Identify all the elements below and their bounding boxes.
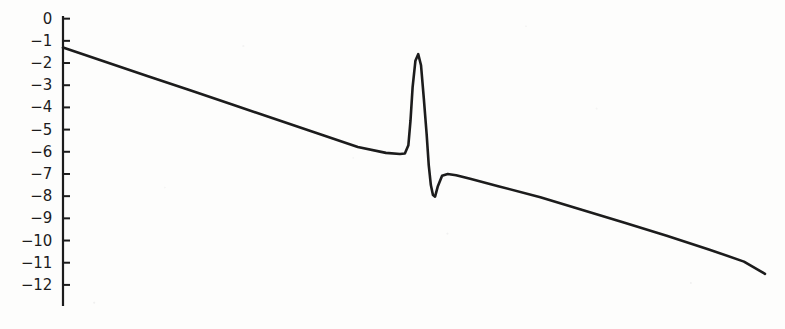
y-axis-tick-label: −7 [0, 166, 52, 181]
data-series-group [63, 48, 765, 274]
y-axis-tick-label: −5 [0, 122, 52, 137]
plot-canvas [0, 0, 785, 329]
y-axis-tick-label: −6 [0, 144, 52, 159]
y-axis-tick-label: −11 [0, 255, 52, 270]
y-axis-tick-label: −12 [0, 277, 52, 292]
y-axis [63, 16, 70, 306]
data-series-line [63, 48, 765, 274]
chart-figure: 0−1−2−3−4−5−6−7−8−9−10−11−12 [0, 0, 785, 329]
y-axis-tick-label: −2 [0, 56, 52, 71]
y-axis-tick-label: −4 [0, 100, 52, 115]
y-axis-tick-label: −3 [0, 78, 52, 93]
y-axis-tick-label: 0 [0, 11, 52, 26]
y-axis-tick-label: −10 [0, 233, 52, 248]
y-axis-tick-label: −1 [0, 33, 52, 48]
y-axis-tick-label: −9 [0, 211, 52, 226]
y-axis-tick-label: −8 [0, 189, 52, 204]
